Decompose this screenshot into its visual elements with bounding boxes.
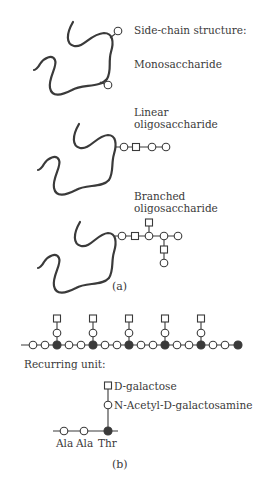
residue-label-thr: Thr <box>98 437 117 449</box>
sugar-circle <box>174 232 182 240</box>
caption-b: (b) <box>112 458 128 471</box>
ala-residue-2 <box>80 427 88 435</box>
sugar-circle <box>148 143 156 151</box>
nacetyl-galactosamine-node <box>104 401 112 409</box>
linear-label-line2: oligosaccharide <box>134 118 218 130</box>
ala-residue-1 <box>60 427 68 435</box>
residue-label-ala-2: Ala <box>76 437 93 449</box>
thr-residue <box>104 427 112 435</box>
nacetyl-galactosamine-label: N-Acetyl-D-galactosamine <box>114 399 252 411</box>
sugar-square <box>146 219 153 226</box>
protein-chain-3 <box>38 222 116 293</box>
galactose-label: D-galactose <box>114 380 177 392</box>
residue-label-ala-1: Ala <box>56 437 73 449</box>
monosaccharide-label: Monosaccharide <box>134 58 222 70</box>
linear-label-line1: Linear <box>134 106 169 118</box>
caption-a: (a) <box>112 280 127 293</box>
protein-chain-2 <box>38 124 116 195</box>
sugar-circle <box>160 232 168 240</box>
sugar-circle <box>120 143 128 151</box>
sugar-square <box>133 144 140 151</box>
galactose-node <box>105 382 112 389</box>
sugar-circle <box>162 143 170 151</box>
sugar-circle <box>114 27 122 35</box>
sugar-circle <box>118 232 126 240</box>
protein-chain-1 <box>34 22 113 95</box>
sugar-circle <box>145 232 153 240</box>
sugar-square <box>132 233 139 240</box>
sugar-circle <box>160 259 168 267</box>
branched-label-line1: Branched <box>134 190 185 202</box>
sugar-circle <box>104 81 112 89</box>
sugar-square <box>161 246 168 253</box>
side-chain-heading: Side-chain structure: <box>134 24 246 36</box>
glycoprotein-diagram <box>0 0 259 485</box>
recurring-unit-label: Recurring unit: <box>24 358 106 370</box>
branched-label-line2: oligosaccharide <box>134 202 218 214</box>
